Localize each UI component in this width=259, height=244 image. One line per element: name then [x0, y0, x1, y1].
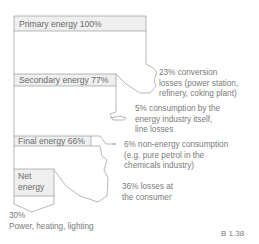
final-energy-label: Final energy 66% [18, 136, 85, 146]
net-energy-label-line2: energy [18, 182, 44, 192]
net-output-note: 30% Power, heating, lighting [9, 211, 94, 232]
consumer-loss-bracket [54, 146, 108, 202]
conversion-loss-note: 23% conversion losses (power station, re… [159, 68, 238, 100]
secondary-energy-label: Secondary energy 77% [19, 75, 108, 85]
industry-consumption-bracket [110, 86, 126, 120]
conversion-loss-bracket [116, 31, 157, 93]
energy-flow-outline [0, 0, 259, 244]
net-energy-label-line1: Net [18, 171, 31, 181]
non-energy-note: 6% non-energy consumption (e.g. pure pet… [124, 140, 228, 172]
consumer-loss-note: 36% losses at the consumer [122, 182, 173, 203]
figure-id: B 1.38 [221, 229, 244, 238]
net-energy-arrow [14, 196, 54, 212]
industry-consumption-note: 5% consumption by the energy industry it… [135, 104, 220, 136]
primary-energy-label: Primary energy 100% [19, 19, 102, 29]
non-energy-bracket [91, 136, 116, 144]
